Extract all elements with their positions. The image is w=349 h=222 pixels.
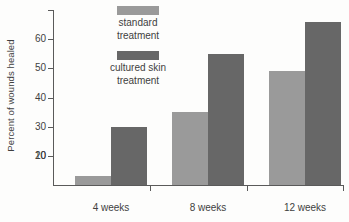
bar-chart-figure: Percent of wounds healed 60 50 40 30 20 [0, 0, 349, 222]
legend-entry-cultured: cultured skin treatment [84, 51, 192, 87]
x-group-label-4-weeks: 4 weeks [63, 201, 159, 214]
legend-label-cultured-line2: treatment [84, 75, 192, 88]
legend: standard treatment cultured skin treatme… [84, 6, 192, 96]
cultured-swatch-icon [117, 51, 159, 60]
bar-cultured-8-weeks [208, 54, 244, 185]
y-tick-label-ten: 10 [35, 149, 46, 162]
legend-label-cultured-line1: cultured skin [84, 62, 192, 75]
x-axis-line [53, 185, 344, 186]
y-tick-label-60: 60 [35, 32, 46, 45]
bar-standard-12-weeks [269, 71, 305, 185]
legend-label-standard-line1: standard [84, 17, 192, 30]
bar-cultured-4-weeks [111, 127, 147, 185]
y-tick-label-50: 50 [35, 61, 46, 74]
y-axis-line [53, 10, 54, 186]
legend-entry-standard: standard treatment [84, 6, 192, 42]
y-tick-label-30: 30 [35, 120, 46, 133]
x-tick-sep-2 [247, 185, 248, 191]
x-tick-sep-3 [343, 185, 344, 191]
y-axis-title-text: Percent of wounds healed [5, 39, 16, 151]
x-group-label-12-weeks: 12 weeks [257, 201, 349, 214]
x-group-label-8-weeks: 8 weeks [160, 201, 256, 214]
bar-cultured-12-weeks [305, 22, 341, 185]
y-axis-title: Percent of wounds healed [0, 0, 20, 190]
x-tick-sep-1 [150, 185, 151, 191]
standard-swatch-icon [117, 6, 159, 15]
y-tick-label-40: 40 [35, 91, 46, 104]
bar-standard-4-weeks [75, 176, 111, 185]
legend-label-standard-line2: treatment [84, 30, 192, 43]
bar-standard-8-weeks [172, 112, 208, 185]
